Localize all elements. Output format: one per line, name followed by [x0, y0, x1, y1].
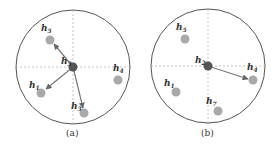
node-h5 [181, 35, 190, 44]
panel-b: h5 h1 h7 h4 h2 (b) [151, 9, 265, 138]
label-center: h2 [195, 55, 206, 66]
arrow-to-h4 [208, 66, 248, 79]
caption-a: (a) [66, 128, 78, 138]
label-h4: h4 [247, 62, 258, 73]
label-h7: h7 [206, 96, 218, 107]
node-h5 [46, 36, 55, 45]
arrow-to-h1 [46, 67, 73, 89]
label-h3-bottom: h3 [71, 101, 82, 112]
label-h5: h5 [41, 23, 52, 34]
label-h5: h5 [176, 22, 187, 33]
diagram-canvas: h5 h1 h3 h4 h3 (a) h5 h1 h7 h4 h2 (b) [0, 0, 280, 147]
node-h4 [114, 76, 123, 85]
label-h1: h1 [164, 78, 175, 89]
node-h4 [249, 76, 258, 85]
node-h7 [214, 107, 223, 116]
panel-a: h5 h1 h3 h4 h3 (a) [16, 10, 130, 138]
label-h4: h4 [113, 63, 124, 74]
caption-b: (b) [201, 128, 214, 138]
label-h1: h1 [29, 80, 40, 91]
label-center: h3 [61, 56, 72, 67]
